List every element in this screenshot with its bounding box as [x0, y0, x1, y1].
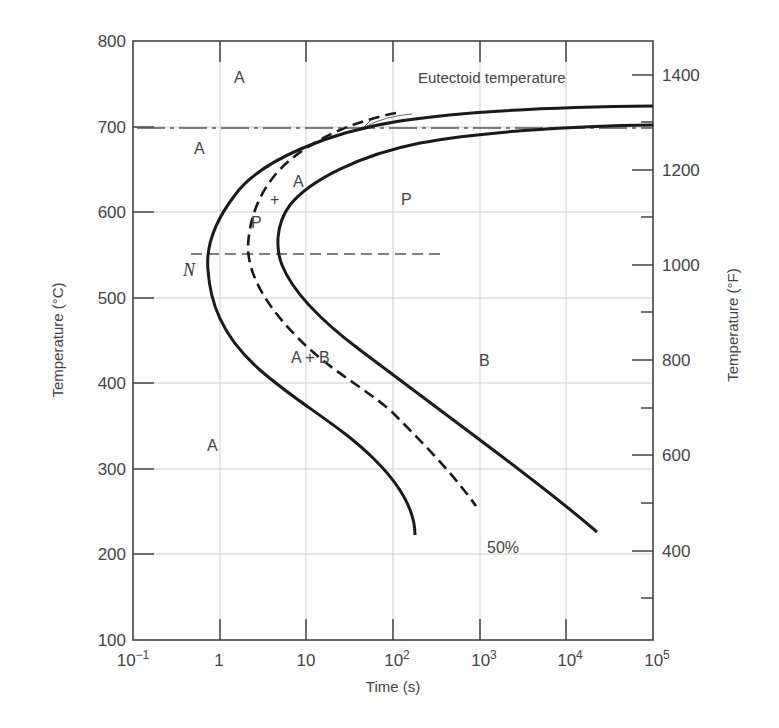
x-tick-100000: 105 — [644, 648, 670, 670]
x-tick-0.1: 10−1 — [117, 648, 150, 670]
x-tick-10: 10 — [297, 651, 316, 670]
end-curve — [278, 125, 653, 532]
y-tick-800: 800 — [98, 32, 126, 51]
x-axis-labels: 10−1 1 10 102 103 104 105 — [117, 648, 670, 670]
region-label-pearlite: P — [401, 191, 412, 208]
eutectoid-label: Eutectoid temperature — [418, 69, 566, 86]
left-axis-ticks — [133, 127, 154, 554]
x-tick-1: 1 — [214, 651, 223, 670]
region-label-bainite: B — [479, 352, 490, 369]
x-axis-title: Time (s) — [366, 678, 420, 695]
x-tick-1000: 103 — [471, 648, 497, 670]
y-right-tick-1000: 1000 — [662, 256, 700, 275]
y-right-tick-1400: 1400 — [662, 66, 700, 85]
y-right-tick-1200: 1200 — [662, 161, 700, 180]
start-curve — [208, 106, 653, 535]
region-label-austenite-lower: A — [207, 437, 218, 454]
y-right-tick-600: 600 — [662, 446, 690, 465]
x-tick-10000: 104 — [557, 648, 583, 670]
y-tick-300: 300 — [98, 460, 126, 479]
x-tick-100: 102 — [384, 648, 410, 670]
fifty-percent-label: 50% — [487, 539, 519, 556]
region-label-austenite-bainite: A + B — [291, 349, 330, 366]
y-tick-200: 200 — [98, 545, 126, 564]
y-right-tick-400: 400 — [662, 542, 690, 561]
y-axis-right-title: Temperature (°F) — [724, 268, 741, 382]
region-label-pa-plus: + — [270, 191, 279, 208]
y-axis-left-title: Temperature (°C) — [49, 282, 66, 397]
y-tick-700: 700 — [98, 118, 126, 137]
y-tick-600: 600 — [98, 203, 126, 222]
region-label-pa-pearlite: P — [251, 214, 262, 231]
top-axis-ticks — [220, 41, 566, 62]
y-tick-500: 500 — [98, 289, 126, 308]
nose-label: N — [182, 260, 196, 280]
y-axis-left-labels: 800 700 600 500 400 300 200 100 — [98, 32, 126, 650]
bottom-axis-ticks — [220, 619, 566, 640]
y-tick-100: 100 — [98, 631, 126, 650]
region-label-austenite-top: A — [234, 69, 245, 86]
y-axis-right-labels: 1400 1200 1000 800 600 400 — [662, 66, 700, 561]
y-tick-400: 400 — [98, 374, 126, 393]
region-label-pa-austenite: A — [293, 173, 304, 190]
region-label-austenite-upper: A — [194, 140, 205, 157]
right-axis-ticks — [632, 75, 653, 598]
y-right-tick-800: 800 — [662, 351, 690, 370]
ttt-diagram: 800 700 600 500 400 300 200 100 1400 120… — [0, 0, 779, 728]
